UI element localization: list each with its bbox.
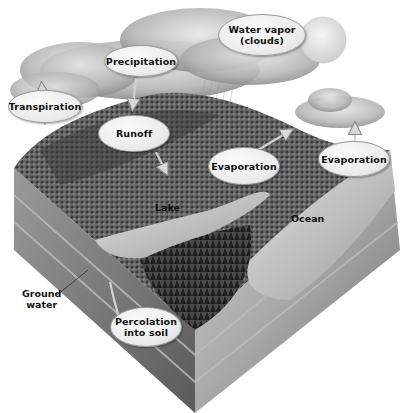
label-transpiration: Transpiration: [8, 90, 82, 123]
label-water-vapor: Water vapor (clouds): [218, 14, 306, 56]
label-runoff: Runoff: [98, 115, 170, 152]
label-water-vapor-line2: (clouds): [240, 35, 284, 46]
label-ocean: Ocean: [291, 213, 324, 224]
label-percolation: Percolation into soil: [110, 307, 182, 347]
water-cycle-scene: [0, 0, 401, 413]
label-evaporation-ocean: Evaporation: [318, 141, 390, 177]
label-water-vapor-line1: Water vapor: [228, 24, 295, 35]
label-ground-water: Ground water: [22, 288, 61, 310]
label-lake: Lake: [155, 202, 180, 213]
sun: [300, 17, 346, 63]
label-evaporation-lake: Evaporation: [208, 147, 280, 185]
label-precipitation: Precipitation: [104, 45, 178, 77]
